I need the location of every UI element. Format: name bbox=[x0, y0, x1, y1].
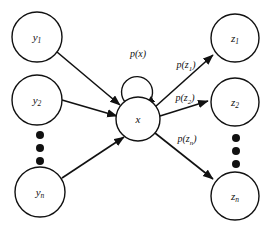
diagram-canvas: y1 y2 yn x bbox=[0, 0, 277, 231]
ellipsis-right-dot-3 bbox=[232, 160, 240, 168]
ellipsis-left-dot-1 bbox=[36, 131, 44, 139]
ellipsis-right bbox=[232, 134, 240, 168]
edge-label-p-x: p(x) bbox=[129, 48, 147, 60]
graph-svg: y1 y2 yn x bbox=[0, 0, 277, 231]
node-y2[interactable]: y2 bbox=[12, 75, 62, 125]
edge-label-p-z1: p(z1) bbox=[175, 59, 196, 72]
node-z2[interactable]: z2 bbox=[211, 78, 259, 126]
edge-y1-to-x bbox=[57, 52, 120, 105]
ellipsis-right-dot-2 bbox=[232, 147, 240, 155]
node-zn[interactable]: zn bbox=[211, 172, 259, 220]
node-yn[interactable]: yn bbox=[15, 167, 65, 217]
node-z1[interactable]: z1 bbox=[211, 14, 259, 62]
edge-y2-to-x bbox=[62, 100, 117, 116]
edge-label-p-zn: p(zn) bbox=[176, 133, 197, 146]
node-x-label: x bbox=[135, 113, 141, 125]
ellipsis-left-dot-2 bbox=[36, 144, 44, 152]
ellipsis-left-dot-3 bbox=[36, 157, 44, 165]
edge-label-p-z2: p(z2) bbox=[174, 92, 195, 105]
ellipsis-left bbox=[36, 131, 44, 165]
ellipsis-right-dot-1 bbox=[232, 134, 240, 142]
node-y1[interactable]: y1 bbox=[12, 12, 62, 62]
node-x[interactable]: x bbox=[116, 97, 160, 141]
edge-yn-to-x bbox=[62, 137, 124, 178]
